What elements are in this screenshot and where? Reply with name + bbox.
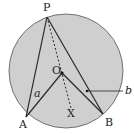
label-x: X	[67, 108, 75, 119]
angle-label-a: a	[34, 88, 41, 99]
label-b: B	[105, 117, 113, 128]
label-a: A	[19, 119, 27, 130]
angle-label-b: b	[125, 85, 132, 96]
label-p: P	[43, 2, 50, 13]
circle	[9, 14, 123, 128]
label-o: O	[52, 65, 61, 76]
